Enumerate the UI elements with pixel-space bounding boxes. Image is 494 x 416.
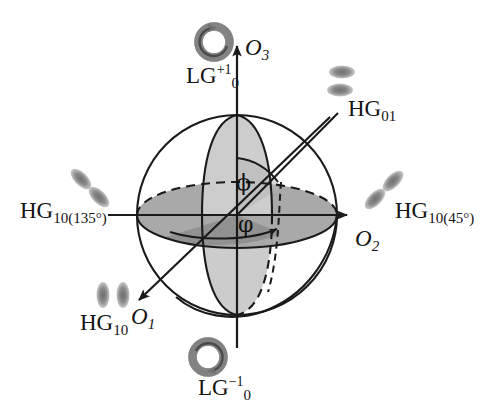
label-angle-polar: ϕ bbox=[236, 172, 251, 194]
label-axis-o3-base: O bbox=[245, 35, 262, 60]
label-hg-10-sub: 10 bbox=[113, 322, 128, 338]
label-axis-o2-base: O bbox=[355, 226, 372, 251]
label-lg-plus-one-sup: +1 bbox=[217, 62, 232, 77]
label-hg-10-45-base: HG bbox=[395, 198, 428, 223]
lg-plus-one-vortex-icon bbox=[199, 27, 230, 58]
label-lg-plus-one-sub: 0 bbox=[232, 75, 240, 91]
label-lg-minus-one: LG−10 bbox=[198, 376, 251, 399]
label-hg-01-sub: 01 bbox=[381, 108, 396, 124]
label-axis-o1-sub: 1 bbox=[148, 316, 156, 332]
label-lg-plus-one-base: LG bbox=[186, 63, 217, 88]
label-hg-10-45-sub: 10(45°) bbox=[428, 210, 474, 226]
poincare-sphere-figure: LG+10 LG−10 HG01 HG10 HG10(45°) HG10(135… bbox=[0, 0, 494, 416]
hg10-lobes-icon bbox=[97, 282, 130, 308]
label-hg-10-45: HG10(45°) bbox=[395, 199, 474, 222]
label-hg-01-base: HG bbox=[348, 96, 381, 121]
label-hg-10-base: HG bbox=[80, 310, 113, 335]
label-hg-10: HG10 bbox=[80, 311, 128, 334]
label-angle-azimuth: φ bbox=[238, 214, 253, 236]
label-axis-o1: O1 bbox=[131, 305, 155, 328]
hg01-lobes-icon bbox=[327, 66, 355, 97]
label-lg-minus-one-sup: −1 bbox=[229, 374, 244, 389]
label-axis-o2: O2 bbox=[355, 227, 379, 250]
label-axis-o3-sub: 3 bbox=[262, 47, 270, 63]
label-lg-minus-one-base: LG bbox=[198, 375, 229, 400]
label-lg-minus-one-sub: 0 bbox=[244, 387, 252, 403]
label-hg-01: HG01 bbox=[348, 97, 396, 120]
label-axis-o2-sub: 2 bbox=[372, 238, 380, 254]
label-axis-o1-base: O bbox=[131, 304, 148, 329]
label-lg-plus-one: LG+10 bbox=[186, 64, 239, 87]
label-hg-10-135: HG10(135°) bbox=[20, 199, 107, 222]
label-hg-10-135-sub: 10(135°) bbox=[53, 210, 107, 226]
lg-minus-one-vortex-icon bbox=[193, 342, 224, 373]
label-axis-o3: O3 bbox=[245, 36, 269, 59]
label-hg-10-135-base: HG bbox=[20, 198, 53, 223]
